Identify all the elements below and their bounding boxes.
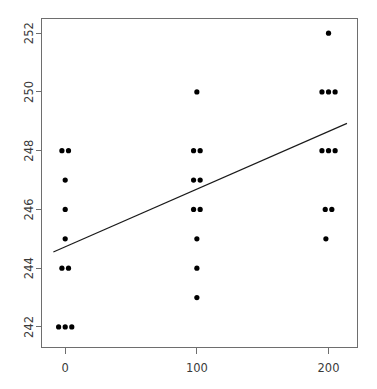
data-point: [198, 177, 203, 182]
data-point: [194, 236, 199, 241]
plot-canvas: 2422442462482502520100200: [0, 0, 377, 389]
x-tick-label-0: 0: [62, 361, 69, 375]
data-point: [194, 266, 199, 271]
data-point: [198, 207, 203, 212]
data-point: [329, 207, 334, 212]
x-tick-label-100: 100: [186, 361, 208, 375]
data-point: [69, 324, 74, 329]
y-tick-label-244: 244: [22, 257, 36, 279]
y-tick-label-250: 250: [22, 81, 36, 103]
scatter-plot-figure: 2422442462482502520100200: [0, 0, 377, 389]
y-tick-label-246: 246: [22, 198, 36, 220]
data-point: [56, 324, 61, 329]
data-point: [191, 177, 196, 182]
x-tick-label-200: 200: [318, 361, 340, 375]
data-point: [63, 207, 68, 212]
y-tick-label-248: 248: [22, 140, 36, 162]
data-point: [326, 148, 331, 153]
data-point: [59, 266, 64, 271]
data-point: [198, 148, 203, 153]
data-point: [191, 148, 196, 153]
data-point: [194, 89, 199, 94]
data-point: [66, 148, 71, 153]
data-point: [323, 236, 328, 241]
data-point: [63, 324, 68, 329]
data-point: [333, 89, 338, 94]
data-point: [66, 266, 71, 271]
data-point: [319, 89, 324, 94]
regression-line: [53, 123, 347, 252]
plot-frame: [42, 19, 358, 348]
data-point: [63, 177, 68, 182]
data-point: [333, 148, 338, 153]
y-tick-label-242: 242: [22, 316, 36, 338]
data-point: [326, 31, 331, 36]
data-point: [326, 89, 331, 94]
data-point: [63, 236, 68, 241]
data-point: [194, 295, 199, 300]
data-point: [191, 207, 196, 212]
data-point: [59, 148, 64, 153]
data-point: [323, 207, 328, 212]
y-tick-label-252: 252: [22, 22, 36, 44]
data-point: [319, 148, 324, 153]
